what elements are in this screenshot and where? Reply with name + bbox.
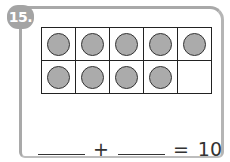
ten-frame-cell (42, 28, 76, 61)
counter-circle-icon (149, 66, 172, 89)
ten-frame-cell (178, 28, 212, 61)
counter-circle-icon (47, 66, 70, 89)
ten-frame-cell (144, 28, 178, 61)
ten-frame-cell (110, 28, 144, 61)
counter-circle-icon (183, 33, 206, 56)
ten-frame-cell (42, 61, 76, 94)
counter-circle-icon (47, 33, 70, 56)
counter-circle-icon (81, 66, 104, 89)
equation: + = 10 (38, 130, 223, 160)
counter-circle-icon (115, 33, 138, 56)
equation-total: 10 (198, 138, 222, 160)
ten-frame-cell (110, 61, 144, 94)
answer-blank-2[interactable] (118, 154, 165, 155)
answer-blank-1[interactable] (38, 154, 85, 155)
ten-frame-cell (144, 61, 178, 94)
ten-frame-cell (178, 61, 212, 94)
equals-sign: = (173, 138, 189, 160)
counter-circle-icon (115, 66, 138, 89)
counter-circle-icon (149, 33, 172, 56)
plus-sign: + (93, 138, 109, 160)
ten-frame (41, 27, 212, 94)
ten-frame-cell (76, 61, 110, 94)
ten-frame-cell (76, 28, 110, 61)
counter-circle-icon (81, 33, 104, 56)
problem-number-badge: 15. (7, 5, 34, 29)
